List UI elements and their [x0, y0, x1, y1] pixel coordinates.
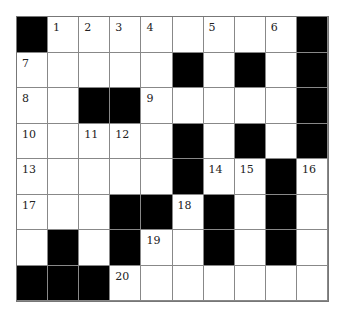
clue-number: 10 [22, 129, 36, 140]
clue-number: 19 [146, 235, 160, 246]
crossword-cell[interactable] [79, 230, 110, 266]
black-cell [204, 195, 235, 231]
black-cell [235, 124, 266, 160]
black-cell [79, 266, 110, 302]
crossword-cell[interactable] [173, 266, 204, 302]
clue-number: 16 [302, 164, 316, 175]
crossword-cell[interactable] [48, 88, 79, 124]
crossword-cell[interactable] [79, 53, 110, 89]
black-cell [173, 124, 204, 160]
crossword-cell[interactable]: 5 [204, 17, 235, 53]
crossword-cell[interactable] [17, 230, 48, 266]
black-cell [110, 230, 141, 266]
black-cell [266, 159, 297, 195]
black-cell [204, 230, 235, 266]
crossword-cell[interactable] [48, 53, 79, 89]
crossword-cell[interactable] [297, 266, 328, 302]
crossword-cell[interactable]: 19 [141, 230, 172, 266]
crossword-cell[interactable]: 8 [17, 88, 48, 124]
black-cell [110, 88, 141, 124]
crossword-cell[interactable]: 6 [266, 17, 297, 53]
clue-number: 9 [146, 93, 153, 104]
clue-number: 14 [209, 164, 223, 175]
crossword-cell[interactable] [48, 124, 79, 160]
crossword-cell[interactable]: 2 [79, 17, 110, 53]
black-cell [297, 124, 328, 160]
crossword-cell[interactable] [235, 195, 266, 231]
clue-number: 11 [84, 129, 98, 140]
crossword-cell[interactable]: 20 [110, 266, 141, 302]
crossword-cell[interactable]: 7 [17, 53, 48, 89]
clue-number: 15 [240, 164, 254, 175]
crossword-cell[interactable] [204, 124, 235, 160]
crossword-cell[interactable] [266, 266, 297, 302]
black-cell [173, 159, 204, 195]
crossword-cell[interactable] [141, 159, 172, 195]
crossword-cell[interactable]: 9 [141, 88, 172, 124]
black-cell [110, 195, 141, 231]
crossword-cell[interactable]: 14 [204, 159, 235, 195]
crossword-cell[interactable] [141, 266, 172, 302]
crossword-cell[interactable] [48, 195, 79, 231]
black-cell [17, 266, 48, 302]
crossword-cell[interactable] [266, 88, 297, 124]
clue-number: 3 [115, 22, 122, 33]
crossword-cell[interactable] [173, 88, 204, 124]
crossword-cell[interactable]: 17 [17, 195, 48, 231]
black-cell [297, 17, 328, 53]
black-cell [173, 53, 204, 89]
crossword-cell[interactable]: 12 [110, 124, 141, 160]
crossword-cell[interactable] [235, 230, 266, 266]
crossword-cell[interactable] [297, 230, 328, 266]
clue-number: 2 [84, 22, 91, 33]
crossword-cell[interactable] [79, 195, 110, 231]
clue-number: 13 [22, 164, 36, 175]
crossword-cell[interactable] [141, 124, 172, 160]
clue-number: 6 [271, 22, 278, 33]
crossword-cell[interactable] [204, 266, 235, 302]
crossword-cell[interactable]: 11 [79, 124, 110, 160]
crossword-cell[interactable] [173, 230, 204, 266]
crossword-cell[interactable] [235, 88, 266, 124]
black-cell [141, 195, 172, 231]
black-cell [297, 53, 328, 89]
crossword-cell[interactable]: 15 [235, 159, 266, 195]
crossword-cell[interactable] [141, 53, 172, 89]
crossword-cell[interactable] [266, 124, 297, 160]
black-cell [79, 88, 110, 124]
crossword-cell[interactable] [79, 159, 110, 195]
black-cell [235, 53, 266, 89]
crossword-cell[interactable]: 18 [173, 195, 204, 231]
crossword-cell[interactable] [173, 17, 204, 53]
crossword-cell[interactable] [204, 53, 235, 89]
clue-number: 1 [53, 22, 60, 33]
clue-number: 5 [209, 22, 216, 33]
crossword-cell[interactable] [110, 53, 141, 89]
black-cell [48, 266, 79, 302]
crossword-cell[interactable] [266, 53, 297, 89]
crossword-cell[interactable]: 3 [110, 17, 141, 53]
crossword-cell[interactable] [235, 266, 266, 302]
crossword-cell[interactable]: 13 [17, 159, 48, 195]
crossword-grid: 1234567891011121314151617181920 [16, 16, 329, 302]
clue-number: 4 [146, 22, 153, 33]
crossword-cell[interactable] [297, 195, 328, 231]
clue-number: 12 [115, 129, 129, 140]
crossword-cell[interactable]: 4 [141, 17, 172, 53]
crossword-cell[interactable]: 10 [17, 124, 48, 160]
crossword-cell[interactable] [48, 159, 79, 195]
black-cell [48, 230, 79, 266]
clue-number: 17 [22, 200, 36, 211]
clue-number: 7 [22, 58, 29, 69]
black-cell [297, 88, 328, 124]
clue-number: 18 [178, 200, 192, 211]
black-cell [266, 230, 297, 266]
clue-number: 8 [22, 93, 29, 104]
crossword-cell[interactable]: 16 [297, 159, 328, 195]
black-cell [266, 195, 297, 231]
crossword-cell[interactable] [235, 17, 266, 53]
crossword-cell[interactable] [204, 88, 235, 124]
clue-number: 20 [115, 271, 129, 282]
crossword-cell[interactable]: 1 [48, 17, 79, 53]
crossword-cell[interactable] [110, 159, 141, 195]
